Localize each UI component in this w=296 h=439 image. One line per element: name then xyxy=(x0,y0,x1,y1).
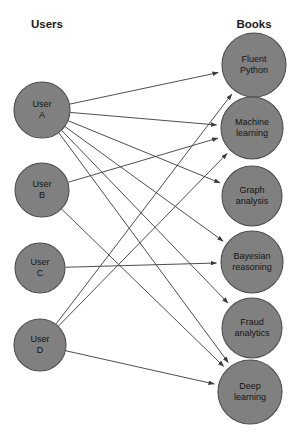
headers-layer: Users Books xyxy=(31,18,272,30)
graph-edge xyxy=(59,133,228,363)
graph-canvas: UserAUserBUserCUserDFluentPythonMachinel… xyxy=(0,0,296,439)
node-label: User xyxy=(30,257,49,267)
node-label: Python xyxy=(240,65,268,75)
column-header-books: Books xyxy=(236,18,271,30)
node-label: C xyxy=(37,268,44,278)
graph-edge xyxy=(70,73,218,105)
node-label: D xyxy=(37,345,44,355)
node-label: learning xyxy=(234,392,266,402)
edges-layer xyxy=(56,73,232,384)
node-label: analysis xyxy=(236,196,269,206)
user-node[interactable]: UserA xyxy=(14,82,70,138)
node-label: B xyxy=(39,190,45,200)
node-label: User xyxy=(32,99,51,109)
nodes-layer: UserAUserBUserCUserDFluentPythonMachinel… xyxy=(14,33,286,424)
graph-edge xyxy=(68,121,220,183)
node-label: learning xyxy=(236,128,268,138)
book-node[interactable]: Bayesianreasoning xyxy=(221,231,283,293)
book-node[interactable]: Fraudanalytics xyxy=(222,298,282,358)
graph-edge xyxy=(59,153,228,326)
node-label: Machine xyxy=(235,117,269,127)
book-node[interactable]: Machinelearning xyxy=(221,97,283,159)
book-node[interactable]: Graphanalysis xyxy=(222,166,282,226)
graph-edge xyxy=(70,112,216,125)
node-label: User xyxy=(32,179,51,189)
graph-edge xyxy=(62,209,224,366)
node-label: Fluent xyxy=(241,54,267,64)
graph-edge xyxy=(66,351,215,384)
node-label: reasoning xyxy=(232,262,272,272)
node-label: Fraud xyxy=(240,317,264,327)
user-node[interactable]: UserC xyxy=(15,243,65,293)
node-label: analytics xyxy=(234,328,270,338)
node-label: Bayesian xyxy=(233,251,270,261)
book-node[interactable]: Deeplearning xyxy=(218,360,282,424)
graph-edge xyxy=(65,263,216,267)
node-label: A xyxy=(39,110,45,120)
bipartite-graph-diagram: UserAUserBUserCUserDFluentPythonMachinel… xyxy=(0,0,296,439)
book-node[interactable]: FluentPython xyxy=(222,33,286,97)
graph-edge xyxy=(62,131,228,304)
user-node[interactable]: UserB xyxy=(15,163,69,217)
user-node[interactable]: UserD xyxy=(14,319,66,371)
node-label: Graph xyxy=(239,185,264,195)
column-header-users: Users xyxy=(31,18,63,30)
node-label: Deep xyxy=(239,381,261,391)
node-label: User xyxy=(30,334,49,344)
